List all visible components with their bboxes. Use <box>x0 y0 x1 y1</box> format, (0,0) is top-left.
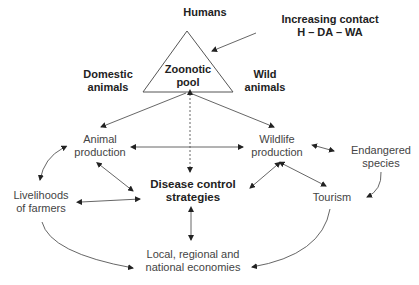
tourism-economies-curve <box>252 209 330 267</box>
domestic-line2: animals <box>83 81 133 94</box>
animal-production-node: Animal production <box>74 133 125 159</box>
contact-arrow <box>212 33 256 51</box>
animal-production-line1: Animal <box>74 133 125 146</box>
zoonotic-pool-label: Zoonotic pool <box>165 63 211 89</box>
humans-label: Humans <box>183 6 226 19</box>
disease-control-line2: strategies <box>150 191 236 204</box>
wildlife-endangered-arrow <box>316 146 334 151</box>
wildlife-production-line2: production <box>251 146 302 159</box>
diagram-edges <box>0 0 419 285</box>
humans-text: Humans <box>183 6 226 19</box>
wildlife-production-line1: Wildlife <box>251 133 302 146</box>
domestic-animals-label: Domestic animals <box>83 68 133 94</box>
pool-to-wildlife-production-arrow <box>190 93 274 127</box>
endangered-species-node: Endangered species <box>351 144 411 170</box>
livelihoods-line2: of farmers <box>13 202 68 215</box>
wild-line1: Wild <box>245 68 286 81</box>
animal-production-line2: production <box>74 146 125 159</box>
animal-livelihoods-curve <box>40 148 63 180</box>
economies-line2: national economies <box>146 261 241 274</box>
tourism-line1: Tourism <box>313 191 352 204</box>
livelihoods-node: Livelihoods of farmers <box>13 189 68 215</box>
domestic-line1: Domestic <box>83 68 133 81</box>
endangered-species-line2: species <box>351 157 411 170</box>
livelihoods-line1: Livelihoods <box>13 189 68 202</box>
pool-to-animal-production-arrow <box>101 93 186 127</box>
increasing-contact-label: Increasing contact H – DA – WA <box>281 13 378 39</box>
pool-line1: Zoonotic <box>165 63 211 76</box>
disease-control-node: Disease control strategies <box>150 178 236 204</box>
disease-control-line1: Disease control <box>150 178 236 191</box>
contact-line1: Increasing contact <box>281 13 378 26</box>
pool-line2: pool <box>165 76 211 89</box>
livelihoods-economies-curve <box>42 222 133 268</box>
endangered-species-line1: Endangered <box>351 144 411 157</box>
wildlife-tourism-arrow <box>283 164 326 186</box>
endangered-tourism-curve <box>367 172 381 197</box>
tourism-node: Tourism <box>313 191 352 204</box>
animal-disease-arrow <box>100 165 133 191</box>
wild-animals-label: Wild animals <box>245 68 286 94</box>
wildlife-production-node: Wildlife production <box>251 133 302 159</box>
economies-node: Local, regional and national economies <box>146 248 241 274</box>
wildlife-disease-arrow <box>250 165 277 188</box>
livelihoods-disease-arrow <box>81 199 140 202</box>
contact-line2: H – DA – WA <box>281 26 378 39</box>
economies-line1: Local, regional and <box>146 248 241 261</box>
wild-line2: animals <box>245 81 286 94</box>
